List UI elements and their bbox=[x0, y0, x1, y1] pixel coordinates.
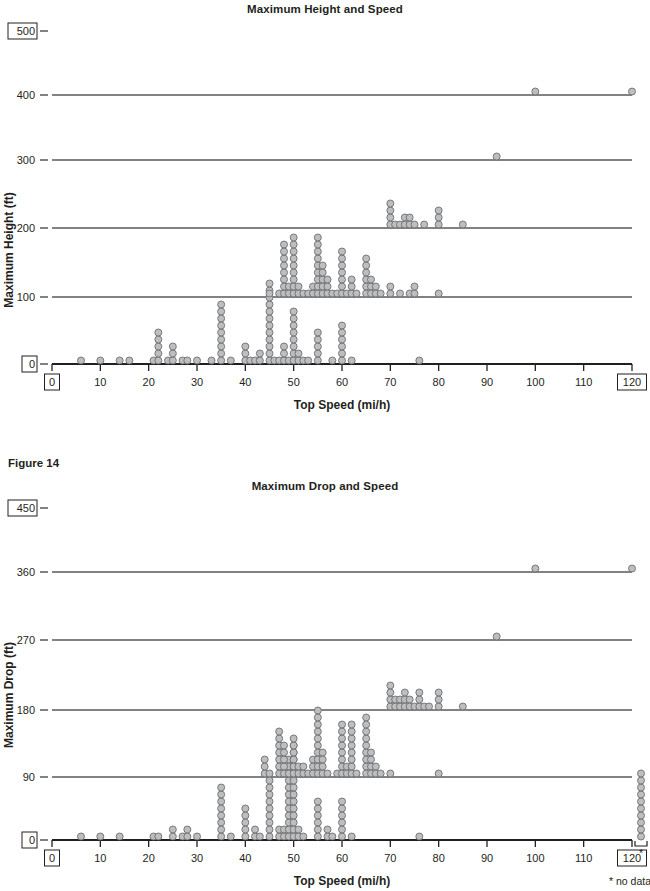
data-point bbox=[406, 214, 413, 221]
data-point bbox=[281, 343, 288, 350]
xtick-label-110: 110 bbox=[575, 852, 593, 864]
data-point bbox=[426, 703, 433, 710]
ytick-label-0: 0 bbox=[29, 834, 35, 846]
data-point bbox=[339, 749, 346, 756]
data-point bbox=[314, 329, 321, 336]
xtick-label-90: 90 bbox=[481, 852, 493, 864]
data-point bbox=[372, 763, 379, 770]
ytick-label-270: 270 bbox=[17, 634, 35, 646]
data-point bbox=[363, 735, 370, 742]
data-point bbox=[295, 283, 302, 290]
data-point bbox=[155, 833, 162, 840]
data-point bbox=[155, 343, 162, 350]
data-point bbox=[339, 735, 346, 742]
data-point bbox=[435, 221, 442, 228]
data-point bbox=[290, 329, 297, 336]
data-point bbox=[368, 276, 375, 283]
data-point bbox=[314, 248, 321, 255]
ytick-label-180: 180 bbox=[17, 704, 35, 716]
data-point bbox=[218, 329, 225, 336]
data-point bbox=[339, 826, 346, 833]
data-point bbox=[493, 153, 500, 160]
data-point bbox=[339, 255, 346, 262]
data-point bbox=[416, 357, 423, 364]
no-data-note: * no data bbox=[609, 875, 650, 887]
data-point bbox=[218, 812, 225, 819]
data-point bbox=[339, 350, 346, 357]
data-point bbox=[435, 207, 442, 214]
data-point bbox=[155, 336, 162, 343]
data-point bbox=[314, 336, 321, 343]
data-point bbox=[97, 833, 104, 840]
no-data-stack: ** no data bbox=[609, 770, 650, 887]
data-point bbox=[266, 770, 273, 777]
data-point bbox=[363, 742, 370, 749]
xtick-label-50: 50 bbox=[288, 852, 300, 864]
data-point bbox=[281, 763, 288, 770]
data-point bbox=[348, 735, 355, 742]
data-point bbox=[372, 283, 379, 290]
data-point bbox=[339, 336, 346, 343]
data-point bbox=[256, 350, 263, 357]
data-point bbox=[348, 283, 355, 290]
data-point bbox=[314, 707, 321, 714]
data-point bbox=[319, 269, 326, 276]
xtick-label-40: 40 bbox=[239, 376, 251, 388]
data-point bbox=[339, 276, 346, 283]
data-point bbox=[401, 689, 408, 696]
data-point bbox=[324, 283, 331, 290]
data-point bbox=[339, 805, 346, 812]
data-point bbox=[266, 336, 273, 343]
data-point bbox=[435, 689, 442, 696]
xtick-label-10: 10 bbox=[94, 852, 106, 864]
data-point bbox=[339, 756, 346, 763]
data-point bbox=[319, 756, 326, 763]
data-point bbox=[290, 819, 297, 826]
ytick-label-500: 500 bbox=[17, 25, 35, 37]
data-point bbox=[290, 234, 297, 241]
data-point bbox=[363, 728, 370, 735]
data-point bbox=[295, 826, 302, 833]
data-point bbox=[435, 696, 442, 703]
data-point bbox=[266, 791, 273, 798]
data-point bbox=[290, 322, 297, 329]
data-point bbox=[377, 290, 384, 297]
data-point-no-data bbox=[638, 833, 645, 840]
data-point bbox=[411, 283, 418, 290]
xtick-label-60: 60 bbox=[336, 376, 348, 388]
data-point bbox=[290, 308, 297, 315]
data-point bbox=[387, 290, 394, 297]
data-point bbox=[242, 833, 249, 840]
data-point bbox=[266, 308, 273, 315]
data-point bbox=[126, 357, 133, 364]
data-point bbox=[348, 742, 355, 749]
data-point bbox=[348, 749, 355, 756]
data-point bbox=[363, 269, 370, 276]
data-point bbox=[459, 703, 466, 710]
data-point bbox=[339, 812, 346, 819]
data-point bbox=[319, 763, 326, 770]
data-point bbox=[266, 777, 273, 784]
data-point bbox=[435, 290, 442, 297]
data-point bbox=[78, 357, 85, 364]
data-point bbox=[290, 336, 297, 343]
data-point bbox=[339, 357, 346, 364]
data-point bbox=[290, 798, 297, 805]
data-point bbox=[266, 798, 273, 805]
data-point bbox=[348, 763, 355, 770]
data-point bbox=[387, 200, 394, 207]
data-point bbox=[218, 343, 225, 350]
xtick-label-60: 60 bbox=[336, 852, 348, 864]
data-point bbox=[348, 276, 355, 283]
data-point bbox=[319, 262, 326, 269]
data-point bbox=[266, 812, 273, 819]
data-point bbox=[406, 696, 413, 703]
data-point bbox=[218, 833, 225, 840]
data-point bbox=[314, 798, 321, 805]
data-point bbox=[290, 749, 297, 756]
data-point bbox=[368, 749, 375, 756]
data-point bbox=[256, 833, 263, 840]
xtick-label-110: 110 bbox=[575, 376, 593, 388]
data-point bbox=[266, 833, 273, 840]
data-point bbox=[353, 290, 360, 297]
